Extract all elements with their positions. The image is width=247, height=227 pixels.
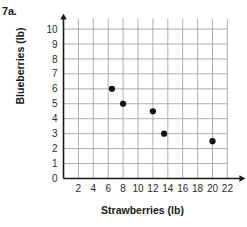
x-tick-label: 20	[207, 183, 219, 194]
data-point-group	[109, 86, 216, 145]
data-point	[150, 108, 156, 114]
y-axis-title: Blueberries (lb)	[14, 6, 26, 126]
x-axis-title: Strawberries (lb)	[55, 204, 230, 216]
x-tick-label: 2	[76, 183, 82, 194]
y-tick-label: 7	[52, 68, 58, 79]
y-tick-label: 9	[52, 39, 58, 50]
data-point	[109, 86, 115, 92]
x-tick-label: 12	[147, 183, 159, 194]
y-tick-label: 0	[52, 173, 58, 184]
x-tick-label: 4	[91, 183, 97, 194]
y-tick-label: 8	[52, 54, 58, 65]
x-tick-label: 6	[105, 183, 111, 194]
y-tick-label: 6	[52, 83, 58, 94]
grid-lines	[64, 19, 228, 179]
x-tick-label: 22	[222, 183, 234, 194]
x-axis-arrow	[239, 175, 245, 181]
x-tick-label: 10	[132, 183, 144, 194]
y-tick-label: 5	[52, 98, 58, 109]
y-tick-label: 3	[52, 128, 58, 139]
y-tick-label: 2	[52, 143, 58, 154]
y-tick-label: 10	[46, 24, 58, 35]
x-tick-label: 14	[162, 183, 174, 194]
data-point	[209, 138, 215, 144]
y-axis-tick-labels: 012345678910	[46, 24, 58, 185]
data-point	[161, 131, 167, 137]
y-tick-label: 1	[52, 158, 58, 169]
y-tick-label: 4	[52, 113, 58, 124]
scatter-plot-figure: 246810121416182022 012345678910 Blueberr…	[0, 0, 247, 227]
x-tick-label: 16	[177, 183, 189, 194]
data-point	[120, 101, 126, 107]
x-axis-tick-labels: 246810121416182022	[76, 183, 234, 194]
plot-canvas: 246810121416182022 012345678910	[0, 0, 247, 227]
x-tick-label: 8	[120, 183, 126, 194]
x-tick-label: 18	[192, 183, 204, 194]
y-axis-arrow	[60, 14, 66, 20]
